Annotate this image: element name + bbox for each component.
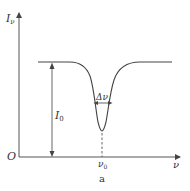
- center-label: ν0: [98, 159, 107, 170]
- width-arrow-head-right: [108, 101, 113, 105]
- figure-caption: a: [99, 173, 105, 184]
- baseline-label: I0: [54, 109, 64, 123]
- y-axis-label: Iν: [5, 12, 15, 26]
- absorption-line-diagram: Iν O ν I0 Δν ν0 a: [0, 0, 190, 191]
- arrow-head-up: [50, 63, 55, 70]
- width-label: Δν: [95, 92, 108, 102]
- arrow-head-down: [50, 151, 55, 157]
- origin-label: O: [7, 150, 16, 163]
- x-axis-label: ν: [173, 159, 179, 170]
